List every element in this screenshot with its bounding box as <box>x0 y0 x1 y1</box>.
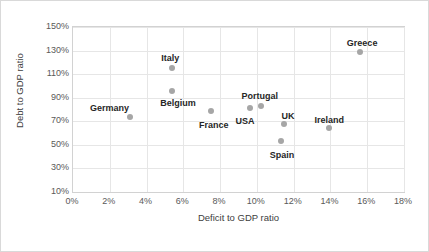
gridline-horizontal <box>73 51 404 52</box>
point-label-usa: USA <box>236 116 255 126</box>
data-point-germany[interactable] <box>127 114 133 120</box>
y-axis-tick-labels: 10%30%50%70%90%110%130%150% <box>25 26 69 193</box>
gridline-vertical <box>257 27 258 192</box>
plot-area: GermanyItalyBelgiumFranceUSAPortugalUKSp… <box>72 26 405 193</box>
y-tick-label: 150% <box>29 21 69 31</box>
x-tick-label: 6% <box>162 196 202 206</box>
data-point-spain[interactable] <box>278 138 284 144</box>
data-point-usa[interactable] <box>247 105 253 111</box>
x-axis-tick-labels: 0%2%4%6%8%10%12%14%16%18% <box>72 196 405 210</box>
data-point-uk[interactable] <box>281 121 287 127</box>
point-label-portugal: Portugal <box>242 91 279 101</box>
point-label-belgium: Belgium <box>160 98 196 108</box>
y-tick-label: 70% <box>29 115 69 125</box>
point-label-ireland: Ireland <box>315 115 345 125</box>
x-tick-label: 8% <box>199 196 239 206</box>
point-label-italy: Italy <box>161 53 179 63</box>
data-point-greece[interactable] <box>357 49 363 55</box>
y-axis-title: Debt to GDP ratio <box>14 31 25 151</box>
gridline-vertical <box>183 27 184 192</box>
point-label-greece: Greece <box>347 38 378 48</box>
data-point-france[interactable] <box>208 108 214 114</box>
gridline-vertical <box>294 27 295 192</box>
point-label-germany: Germany <box>90 103 129 113</box>
x-tick-label: 14% <box>309 196 349 206</box>
x-tick-label: 18% <box>383 196 423 206</box>
y-tick-label: 30% <box>29 162 69 172</box>
point-label-uk: UK <box>281 111 294 121</box>
x-tick-label: 10% <box>236 196 276 206</box>
data-point-ireland[interactable] <box>326 125 332 131</box>
data-point-italy[interactable] <box>169 65 175 71</box>
gridline-vertical <box>147 27 148 192</box>
point-label-spain: Spain <box>270 150 295 160</box>
gridline-horizontal <box>73 74 404 75</box>
data-point-portugal[interactable] <box>258 103 264 109</box>
data-point-belgium[interactable] <box>169 88 175 94</box>
x-tick-label: 4% <box>126 196 166 206</box>
x-tick-label: 2% <box>89 196 129 206</box>
gridline-horizontal <box>73 168 404 169</box>
x-tick-label: 16% <box>346 196 386 206</box>
y-tick-label: 90% <box>29 92 69 102</box>
gridline-vertical <box>220 27 221 192</box>
x-axis-title: Deficit to GDP ratio <box>72 212 405 223</box>
gridline-vertical <box>330 27 331 192</box>
gridline-horizontal <box>73 145 404 146</box>
y-tick-label: 10% <box>29 186 69 196</box>
gridline-vertical <box>404 27 405 192</box>
y-tick-label: 110% <box>29 68 69 78</box>
gridline-vertical <box>367 27 368 192</box>
point-label-france: France <box>199 120 229 130</box>
y-tick-label: 130% <box>29 45 69 55</box>
x-tick-label: 12% <box>273 196 313 206</box>
gridline-horizontal <box>73 27 404 28</box>
gridline-horizontal <box>73 98 404 99</box>
y-tick-label: 50% <box>29 139 69 149</box>
scatter-chart: GermanyItalyBelgiumFranceUSAPortugalUKSp… <box>0 0 429 252</box>
x-tick-label: 0% <box>52 196 92 206</box>
